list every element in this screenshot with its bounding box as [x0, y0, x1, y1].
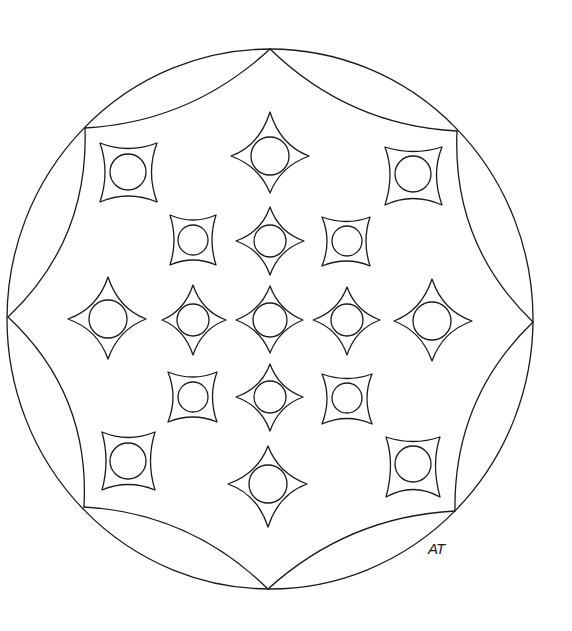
square-star	[170, 215, 216, 265]
square-star	[100, 143, 157, 202]
inner-petal-arcs	[8, 49, 533, 589]
star-outline	[168, 372, 217, 422]
star-circle	[249, 465, 287, 503]
square-star	[386, 437, 440, 497]
square-star	[322, 374, 372, 424]
petal-arc	[457, 131, 533, 322]
star-outline	[170, 215, 216, 265]
petal-arc	[85, 49, 270, 128]
petal-arc	[268, 511, 455, 589]
square-star	[168, 372, 217, 422]
square-star	[322, 217, 370, 266]
diamond-star	[236, 207, 304, 275]
star-circle	[251, 137, 289, 175]
square-star	[102, 432, 155, 490]
mandala-drawing	[0, 0, 572, 631]
outer-circle	[7, 49, 533, 589]
star-outline	[236, 364, 303, 431]
diamond-stars	[68, 112, 472, 527]
star-outline	[162, 285, 226, 355]
star-circle	[254, 381, 286, 413]
diamond-star	[236, 364, 303, 431]
diamond-star	[228, 446, 307, 527]
star-outline	[313, 287, 380, 355]
diamond-star	[394, 279, 472, 361]
star-circle	[178, 382, 208, 412]
diamond-star	[68, 277, 146, 359]
star-outline	[394, 279, 472, 361]
star-circle	[413, 302, 451, 340]
star-circle	[332, 383, 362, 413]
star-circle	[110, 154, 146, 190]
star-circle	[110, 443, 146, 479]
star-circle	[178, 225, 208, 255]
petal-arc	[270, 49, 457, 131]
diamond-star	[231, 112, 309, 193]
diamond-star	[162, 285, 226, 355]
diamond-star	[313, 287, 380, 355]
artist-signature: AT	[428, 540, 444, 557]
star-outline	[322, 217, 370, 266]
star-outline	[228, 446, 307, 527]
square-star	[385, 147, 442, 205]
petal-arc	[455, 322, 533, 511]
star-circle	[253, 303, 287, 337]
star-outline	[322, 374, 372, 424]
star-circle	[254, 225, 286, 257]
petal-arc	[84, 507, 268, 589]
star-circle	[331, 304, 363, 336]
diamond-star	[236, 286, 303, 353]
star-outline	[236, 207, 304, 275]
petal-arc	[8, 128, 85, 317]
star-circle	[89, 300, 127, 338]
star-outline	[68, 277, 146, 359]
star-outline	[100, 143, 157, 202]
star-circle	[332, 226, 362, 256]
star-outline	[231, 112, 309, 193]
petal-arc	[8, 317, 84, 507]
star-outline	[236, 286, 303, 353]
star-circle	[395, 156, 431, 192]
star-circle	[177, 304, 209, 336]
square-stars	[100, 143, 442, 497]
star-circle	[395, 446, 431, 482]
